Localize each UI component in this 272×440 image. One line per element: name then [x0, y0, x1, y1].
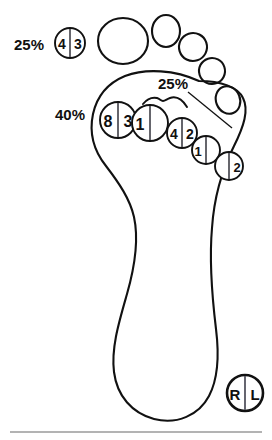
- laterality-marker: R L: [227, 375, 263, 411]
- marker-value-right: 2: [186, 126, 194, 142]
- foot-diagram-canvas: 25% 25% 40% 4 3 8 3: [0, 0, 272, 440]
- marker-mtp-42: 4 2: [167, 118, 197, 148]
- toe-hallux: [98, 18, 148, 64]
- marker-value-right: 2: [233, 160, 240, 175]
- percent-label-heel-region: 40%: [55, 106, 85, 123]
- laterality-right-letter: R: [230, 386, 241, 403]
- marker-value-left: 8: [104, 113, 113, 130]
- marker-value-left: 4: [170, 126, 178, 142]
- percent-label-midfoot-region: 25%: [158, 75, 188, 92]
- toe-second: [152, 15, 180, 47]
- marker-mtp-83: 8 3: [100, 102, 136, 138]
- marker-value-left: 4: [58, 36, 66, 52]
- marker-toe-43: 4 3: [55, 28, 85, 58]
- toe-fifth: [212, 83, 245, 118]
- marker-value-right: 3: [74, 36, 82, 52]
- marker-mtp-1: 1: [132, 105, 168, 141]
- marker-value-left: 1: [194, 144, 201, 159]
- marker-mtp-2: 2: [215, 152, 243, 180]
- foot-diagram-figure: 25% 25% 40% 4 3 8 3: [0, 0, 272, 440]
- laterality-left-letter: L: [250, 386, 259, 403]
- percent-label-toe-region: 25%: [14, 36, 44, 53]
- marker-value-left: 1: [136, 116, 145, 133]
- marker-group: 4 3 8 3 1 4 2: [55, 28, 243, 180]
